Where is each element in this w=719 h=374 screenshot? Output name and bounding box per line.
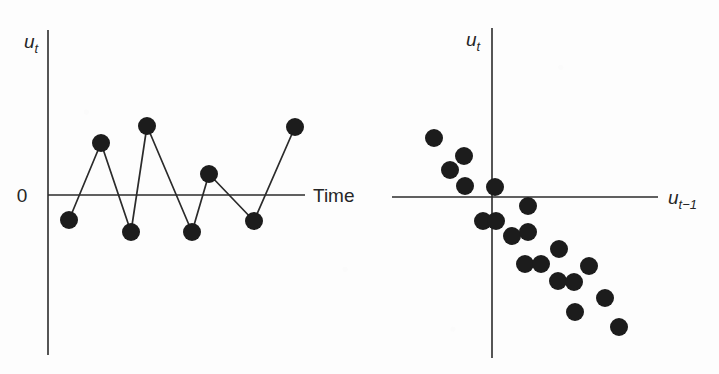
right-chart-point (503, 227, 521, 245)
left-chart-markers (60, 117, 304, 241)
left-chart-y-axis-label: ut (24, 31, 40, 56)
right-chart-point (486, 178, 504, 196)
left-chart-point (138, 117, 156, 135)
right-chart-point (565, 273, 583, 291)
right-chart-point (516, 255, 534, 273)
right-chart-y-axis-label-subscript: t (477, 39, 482, 54)
right-chart-point (549, 272, 567, 290)
left-chart-x-axis-label: Time (313, 185, 355, 206)
left-chart-point (286, 118, 304, 136)
right-chart-point (425, 129, 443, 147)
chart-time-series: ut 0 Time (17, 30, 355, 355)
right-chart-point (550, 240, 568, 258)
right-chart-point (566, 303, 584, 321)
left-chart-point (60, 211, 78, 229)
figure-svg: ut 0 Time (0, 0, 719, 374)
right-chart-x-axis-label-base: u (668, 187, 679, 208)
left-chart-point (122, 223, 140, 241)
right-chart-point (519, 223, 537, 241)
figure-container: ut 0 Time (0, 0, 719, 374)
left-chart-point (92, 134, 110, 152)
right-chart-point (610, 318, 628, 336)
right-chart-point (487, 212, 505, 230)
right-chart-point (519, 197, 537, 215)
right-chart-point (455, 147, 473, 165)
right-chart-y-axis-label: ut (466, 29, 482, 54)
right-chart-markers (425, 129, 628, 336)
left-chart-y-axis-label-subscript: t (35, 41, 40, 56)
left-chart-point (200, 165, 218, 183)
right-chart-point (441, 161, 459, 179)
right-chart-point (456, 177, 474, 195)
left-chart-point (183, 223, 201, 241)
left-chart-y-axis-label-base: u (24, 31, 35, 52)
right-chart-point (532, 255, 550, 273)
right-chart-x-axis-label-subscript: t−1 (679, 197, 697, 212)
right-chart-point (596, 289, 614, 307)
right-chart-y-axis-label-base: u (466, 29, 477, 50)
left-chart-zero-tick: 0 (17, 185, 28, 206)
left-chart-point (245, 212, 263, 230)
right-chart-point (580, 257, 598, 275)
chart-lagged-scatter: ut ut−1 (392, 28, 697, 358)
right-chart-x-axis-label: ut−1 (668, 187, 697, 212)
